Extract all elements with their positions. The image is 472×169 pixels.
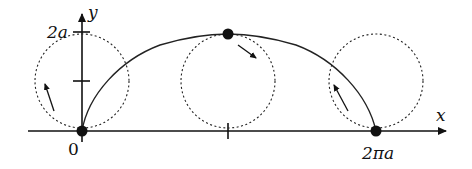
y-tick-label-2a: 2a	[47, 24, 68, 41]
rotation-arrow-end	[334, 85, 348, 111]
circle-middle	[181, 34, 275, 128]
y-axis-label: y	[88, 4, 98, 21]
circle-end	[329, 34, 423, 128]
point-start	[77, 126, 88, 137]
cycloid-curve	[82, 34, 376, 131]
x-axis-label: x	[436, 107, 446, 124]
cycloid-diagram: y x 2a 0 2πa	[0, 0, 472, 169]
rotation-arrow-middle	[238, 45, 256, 58]
rotation-arrow-start	[45, 84, 54, 111]
point-top	[223, 29, 234, 40]
origin-label: 0	[68, 141, 79, 158]
x-tick-label-2pia: 2πa	[362, 145, 394, 162]
point-end	[371, 126, 382, 137]
